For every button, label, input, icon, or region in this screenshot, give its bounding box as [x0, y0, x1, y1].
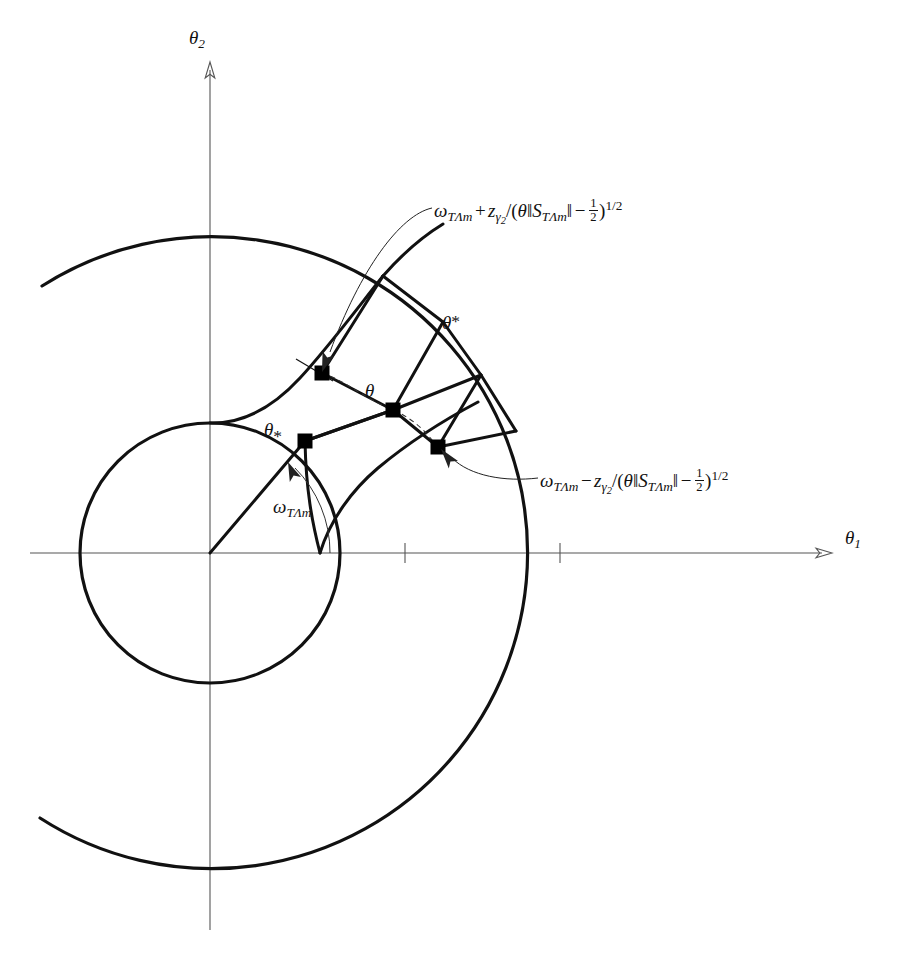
lower-label-arrowhead: [441, 449, 458, 469]
lower-half-numerator: 1: [695, 467, 704, 481]
y-axis-label: θ2: [189, 28, 205, 51]
upper-exponent: 1/2: [605, 198, 622, 213]
omega-angle-label: ωTΛm: [273, 497, 311, 520]
lower-S-symbol: S: [638, 470, 648, 491]
axes-group: [30, 62, 832, 930]
upper-bound-label: ωTΛm+zγ2/(θ‖STΛm‖−12)1/2: [434, 197, 622, 226]
upper-omega-symbol: ω: [434, 200, 447, 221]
omega-angle-subscript: TΛm: [286, 505, 311, 520]
rung-upper-diagonal: [383, 276, 443, 322]
upper-half-denominator: 2: [589, 211, 598, 224]
strand-lower-mid: [305, 410, 393, 441]
rung-center-upper: [393, 322, 443, 410]
band-upper-boundary-extension: [383, 224, 443, 276]
lower-half-fraction: 12: [695, 467, 704, 494]
theta-upper-symbol: θ: [442, 312, 451, 333]
theta-lower-symbol: θ: [264, 419, 273, 440]
band-upper-boundary-curve: [210, 276, 383, 423]
upper-minus: −: [572, 200, 588, 221]
theta-center-label: θ: [365, 381, 374, 400]
lower-z-symbol: z: [594, 470, 601, 491]
theta-lower-star-glyph: *: [273, 426, 282, 446]
theta-lower-star-label: θ*: [264, 420, 282, 445]
lower-bound-label: ωTΛm−zγ2/(θ‖STΛm‖−12)1/2: [540, 467, 728, 496]
x-axis-label-subscript: 1: [854, 536, 861, 551]
y-axis-label-subscript: 2: [198, 36, 205, 51]
upper-half-fraction: 12: [589, 197, 598, 224]
marker-theta-upper: [315, 366, 329, 380]
theta-upper-star-glyph: *: [451, 311, 460, 331]
lower-S-subscript: TΛm: [648, 479, 673, 494]
lower-label-leader: [452, 458, 538, 479]
marker-theta-center: [386, 403, 400, 417]
upper-half-numerator: 1: [589, 197, 598, 211]
upper-operator: +: [472, 200, 488, 221]
omega-angle-symbol: ω: [273, 496, 286, 517]
y-axis-label-symbol: θ: [189, 27, 198, 48]
lower-theta-symbol: θ: [624, 470, 633, 491]
theta-upper-star-label: θ*: [442, 313, 460, 332]
upper-S-subscript: TΛm: [542, 209, 567, 224]
diagram-canvas: [0, 0, 900, 955]
upper-theta-symbol: θ: [518, 200, 527, 221]
x-axis-label: θ1: [845, 528, 861, 551]
upper-omega-subscript: TΛm: [447, 209, 472, 224]
figure-root: θ2 θ1 ωTΛm+zγ2/(θ‖STΛm‖−12)1/2 ωTΛm−zγ2/…: [0, 0, 900, 955]
band-lower-boundary-curve: [320, 402, 478, 553]
lower-minus: −: [678, 470, 694, 491]
lower-exponent: 1/2: [711, 468, 728, 483]
x-axis-label-symbol: θ: [845, 527, 854, 548]
lower-omega-symbol: ω: [540, 470, 553, 491]
rung-center-lower: [438, 375, 481, 447]
lower-half-denominator: 2: [695, 481, 704, 494]
upper-z-symbol: z: [488, 200, 495, 221]
theta-center-symbol: θ: [365, 380, 374, 401]
lower-omega-subscript: TΛm: [553, 479, 578, 494]
upper-S-symbol: S: [532, 200, 542, 221]
rung-lower-outer-link: [438, 431, 516, 447]
lower-operator: −: [578, 470, 594, 491]
marker-theta-lower-star: [298, 434, 312, 448]
